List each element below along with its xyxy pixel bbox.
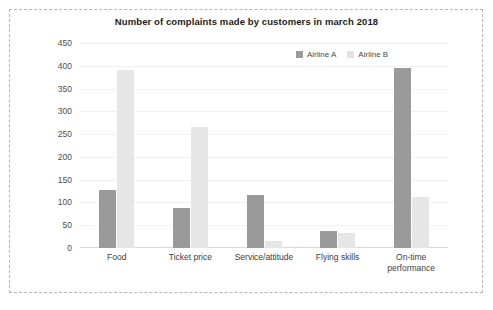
plot-area	[80, 43, 448, 248]
y-tick-label: 100	[38, 197, 72, 207]
bar-airline-a-food	[99, 190, 116, 248]
y-tick-label: 50	[38, 220, 72, 230]
bar-airline-b-ticket-price	[191, 127, 208, 248]
bar-airline-b-on-time-performance	[412, 197, 429, 248]
y-tick-label: 250	[38, 129, 72, 139]
chart-title: Number of complaints made by customers i…	[0, 16, 493, 27]
y-tick-label: 350	[38, 84, 72, 94]
y-tick-label: 0	[38, 243, 72, 253]
y-tick-label: 200	[38, 152, 72, 162]
bar-airline-a-on-time-performance	[394, 68, 411, 248]
y-tick-label: 150	[38, 175, 72, 185]
x-axis-category-labels: FoodTicket priceService/attitudeFlying s…	[80, 252, 448, 292]
bar-airline-a-flying-skills	[320, 231, 337, 248]
y-tick-label: 400	[38, 61, 72, 71]
x-tick-label: Service/attitude	[227, 252, 301, 263]
bar-airline-a-ticket-price	[173, 208, 190, 248]
gridline	[80, 43, 448, 44]
x-tick-label: Flying skills	[301, 252, 375, 263]
y-tick-label: 300	[38, 106, 72, 116]
gridline	[80, 66, 448, 67]
y-axis-tick-labels: 050100150200250300350400450	[38, 43, 72, 248]
bar-airline-b-service-attitude	[265, 241, 282, 248]
bar-airline-b-food	[117, 70, 134, 248]
x-tick-label: On-time performance	[374, 252, 448, 274]
x-tick-label: Food	[80, 252, 154, 263]
x-tick-label: Ticket price	[154, 252, 228, 263]
bar-airline-a-service-attitude	[247, 195, 264, 248]
y-tick-label: 450	[38, 38, 72, 48]
bar-airline-b-flying-skills	[338, 233, 355, 248]
chart-page: Number of complaints made by customers i…	[0, 0, 493, 310]
